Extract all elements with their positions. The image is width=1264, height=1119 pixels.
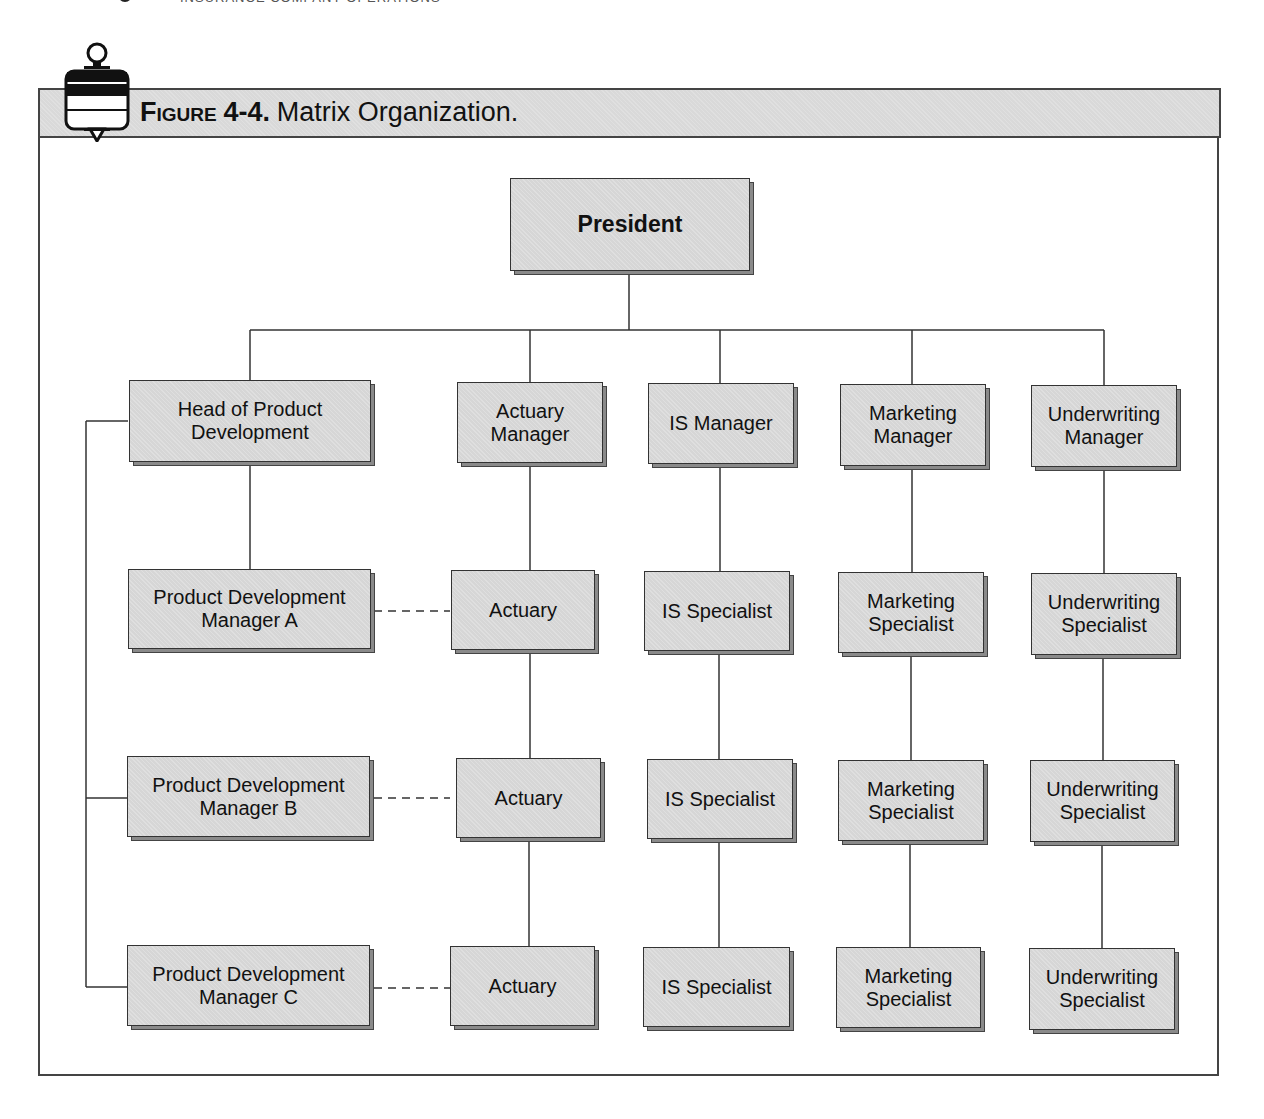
node-underwriting-specialist-3: Underwriting Specialist <box>1029 948 1175 1030</box>
node-underwriting-specialist-2: Underwriting Specialist <box>1030 760 1175 842</box>
running-head-text: Insurance Company Operations <box>180 0 441 5</box>
node-is-specialist-1: IS Specialist <box>644 571 790 651</box>
pushpin-icon <box>62 42 132 142</box>
running-head: Insurance Company Operations <box>0 0 460 8</box>
node-label: Head of Product Development <box>130 398 370 444</box>
node-label: Marketing Specialist <box>839 590 983 636</box>
node-marketing-specialist-2: Marketing Specialist <box>838 760 984 841</box>
node-actuary-2: Actuary <box>456 758 601 838</box>
node-label: Actuary <box>489 787 569 810</box>
node-pdm-b: Product Development Manager B <box>127 756 370 837</box>
node-marketing-manager: Marketing Manager <box>840 384 986 466</box>
node-is-specialist-3: IS Specialist <box>643 947 790 1027</box>
node-label: IS Manager <box>663 412 778 435</box>
node-label: Actuary <box>483 599 563 622</box>
node-label: Actuary Manager <box>458 400 602 446</box>
node-label: Product Development Manager A <box>129 586 370 632</box>
node-actuary-3: Actuary <box>450 946 595 1026</box>
node-label: Underwriting Specialist <box>1030 966 1174 1012</box>
node-label: Marketing Specialist <box>839 778 983 824</box>
node-underwriting-manager: Underwriting Manager <box>1031 385 1177 467</box>
node-label: Actuary <box>483 975 563 998</box>
node-pdm-c: Product Development Manager C <box>127 945 370 1026</box>
node-label: Underwriting Specialist <box>1031 778 1174 824</box>
node-label: Underwriting Specialist <box>1032 591 1176 637</box>
figure-caption: Matrix Organization. <box>277 97 519 127</box>
node-label: Underwriting Manager <box>1032 403 1176 449</box>
node-head-of-product-development: Head of Product Development <box>129 380 371 462</box>
node-pdm-a: Product Development Manager A <box>128 569 371 649</box>
node-label: Product Development Manager C <box>128 963 369 1009</box>
node-underwriting-specialist-1: Underwriting Specialist <box>1031 573 1177 655</box>
node-actuary-manager: Actuary Manager <box>457 382 603 463</box>
figure-title: Figure 4-4. Matrix Organization. <box>140 92 518 132</box>
node-is-specialist-2: IS Specialist <box>647 759 793 839</box>
figure-label: Figure <box>140 97 217 127</box>
node-label: IS Specialist <box>659 788 781 811</box>
node-label: Marketing Manager <box>841 402 985 448</box>
node-label: IS Specialist <box>655 976 777 999</box>
node-label: President <box>572 213 689 236</box>
node-is-manager: IS Manager <box>648 383 794 464</box>
node-actuary-1: Actuary <box>451 570 595 650</box>
node-label: Product Development Manager B <box>128 774 369 820</box>
node-marketing-specialist-1: Marketing Specialist <box>838 572 984 653</box>
figure-number: 4-4. <box>223 97 270 127</box>
chapter-mark-icon <box>118 0 132 2</box>
node-label: Marketing Specialist <box>837 965 980 1011</box>
node-marketing-specialist-3: Marketing Specialist <box>836 947 981 1028</box>
node-president: President <box>510 178 750 271</box>
node-label: IS Specialist <box>656 600 778 623</box>
